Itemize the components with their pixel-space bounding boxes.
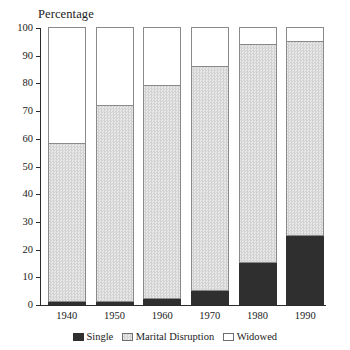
y-tick: 70	[0, 111, 40, 112]
x-tick-label: 1950	[96, 310, 134, 321]
y-tick-label: 100	[17, 20, 33, 36]
legend-item[interactable]: Widowed	[223, 331, 277, 342]
y-tick: 50	[0, 167, 40, 168]
legend-item[interactable]: Marital Disruption	[122, 331, 214, 342]
legend-label: Marital Disruption	[136, 331, 214, 342]
bar-group[interactable]	[96, 28, 134, 305]
x-axis-line	[40, 305, 326, 306]
y-tick: 90	[0, 56, 40, 57]
y-tick: 20	[0, 250, 40, 251]
bar-group[interactable]	[239, 28, 277, 305]
y-tick-label: 70	[23, 103, 34, 119]
swatch-widowed-icon	[223, 333, 234, 341]
bar-segment-single[interactable]	[191, 290, 229, 305]
y-tick-label: 50	[23, 159, 34, 175]
bar-segment-marital-disruption[interactable]	[191, 66, 229, 291]
legend-label: Single	[86, 331, 113, 342]
bar-segment-single[interactable]	[239, 262, 277, 305]
bar-group[interactable]	[286, 28, 324, 305]
x-tick-label: 1990	[286, 310, 324, 321]
y-tick-label: 0	[28, 297, 33, 313]
chart-legend: SingleMarital DisruptionWidowed	[0, 331, 350, 342]
bars-layer	[40, 28, 326, 305]
y-tick-label: 20	[23, 242, 34, 258]
bar-segment-widowed[interactable]	[239, 27, 277, 45]
bar-group[interactable]	[143, 28, 181, 305]
y-tick: 10	[0, 277, 40, 278]
x-tick-label: 1960	[143, 310, 181, 321]
bar-segment-marital-disruption[interactable]	[143, 85, 181, 299]
swatch-single-icon	[73, 333, 84, 341]
bar-segment-widowed[interactable]	[48, 27, 86, 144]
legend-item[interactable]: Single	[73, 331, 113, 342]
y-tick: 100	[0, 28, 40, 29]
legend-label: Widowed	[237, 331, 277, 342]
y-tick-label: 40	[23, 186, 34, 202]
x-tick-label: 1970	[191, 310, 229, 321]
y-tick: 60	[0, 139, 40, 140]
y-axis-title: Percentage	[38, 7, 94, 22]
stacked-bar-chart: Percentage 1009080706050403020100 194019…	[0, 0, 350, 350]
bar-segment-marital-disruption[interactable]	[96, 105, 134, 303]
bar-segment-marital-disruption[interactable]	[48, 143, 86, 302]
y-tick-label: 30	[23, 214, 34, 230]
bar-group[interactable]	[48, 28, 86, 305]
y-tick-label: 10	[23, 269, 34, 285]
bar-group[interactable]	[191, 28, 229, 305]
bar-segment-marital-disruption[interactable]	[239, 44, 277, 264]
x-tick-label: 1940	[48, 310, 86, 321]
y-tick: 80	[0, 83, 40, 84]
bar-segment-widowed[interactable]	[191, 27, 229, 67]
y-tick-label: 60	[23, 131, 34, 147]
x-tick-label: 1980	[239, 310, 277, 321]
y-tick-label: 90	[23, 48, 34, 64]
bar-segment-widowed[interactable]	[96, 27, 134, 106]
y-tick: 30	[0, 222, 40, 223]
bar-segment-single[interactable]	[286, 235, 324, 305]
bar-segment-widowed[interactable]	[143, 27, 181, 86]
bar-segment-marital-disruption[interactable]	[286, 41, 324, 236]
y-tick: 0	[0, 305, 40, 306]
y-tick-mark	[36, 305, 40, 306]
y-tick-label: 80	[23, 75, 34, 91]
bar-segment-widowed[interactable]	[286, 27, 324, 42]
swatch-disruption-icon	[122, 333, 133, 341]
y-tick: 40	[0, 194, 40, 195]
